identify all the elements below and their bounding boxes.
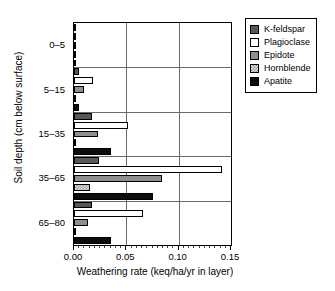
x-minor-tick [183,246,184,248]
bar-plagioclase-65-80 [74,210,143,217]
bar-plagioclase-0-5 [74,33,76,40]
bar-row [74,175,231,182]
x-minor-tick [94,246,95,248]
bar-row [74,237,231,244]
swatch-epidote-icon [250,51,259,60]
x-minor-tick [220,246,221,248]
bar-apatite-35-65 [74,193,153,200]
x-minor-tick [83,246,84,248]
legend-label: Hornblende [264,64,311,73]
y-tick-label: 0–5 [49,39,65,50]
bar-apatite-5-15 [74,104,79,111]
legend-item-k-feldspar[interactable]: K-feldspar [250,23,311,36]
bar-hornblende-0-5 [74,51,76,58]
x-tick-label: 0.15 [221,251,240,262]
bar-row [74,51,231,58]
bar-row [74,77,231,84]
bar-plagioclase-5-15 [74,77,93,84]
bar-row [74,157,231,164]
bar-row [74,166,231,173]
x-major-tick [73,246,74,250]
bar-epidote-5-15 [74,86,84,93]
bar-k-feldspar-5-15 [74,68,79,75]
legend-label: Epidote [264,51,295,60]
x-minor-tick [146,246,147,248]
bar-group [74,201,231,245]
plot-area [73,22,232,246]
legend-item-hornblende[interactable]: Hornblende [250,62,311,75]
bar-group [74,67,231,111]
bar-hornblende-15-35 [74,139,76,146]
x-minor-tick [209,246,210,248]
x-major-tick [230,246,231,250]
x-minor-tick [204,246,205,248]
x-minor-tick [172,246,173,248]
x-minor-tick [141,246,142,248]
x-axis-tick-labels: 0.000.050.100.15 [0,251,335,265]
x-minor-tick [89,246,90,248]
y-axis-tick-labels: 0–55–1515–3535–6565–80 [0,22,70,246]
bar-epidote-0-5 [74,42,76,49]
bar-row [74,228,231,235]
x-minor-tick [199,246,200,248]
bar-row [74,139,231,146]
legend-label: K-feldspar [264,25,305,34]
x-major-tick [125,246,126,250]
bar-k-feldspar-65-80 [74,202,92,209]
x-tick-label: 0.05 [116,251,135,262]
bar-row [74,193,231,200]
bar-hornblende-5-15 [74,95,76,102]
bar-row [74,202,231,209]
bar-epidote-65-80 [74,219,88,226]
x-major-tick [178,246,179,250]
x-minor-tick [131,246,132,248]
legend-item-epidote[interactable]: Epidote [250,49,311,62]
x-minor-tick [214,246,215,248]
bar-row [74,210,231,217]
bar-group [74,23,231,67]
bar-row [74,60,231,67]
bar-row [74,86,231,93]
bar-row [74,33,231,40]
bar-row [74,104,231,111]
bar-plagioclase-15-35 [74,122,128,129]
bar-epidote-15-35 [74,131,98,138]
bar-row [74,42,231,49]
legend-label: Apatite [264,77,292,86]
bar-apatite-65-80 [74,237,111,244]
bar-row [74,68,231,75]
x-minor-tick [157,246,158,248]
x-minor-tick [188,246,189,248]
bar-row [74,113,231,120]
bar-apatite-0-5 [74,60,76,67]
bar-row [74,24,231,31]
bar-group [74,112,231,156]
swatch-k-feldspar-icon [250,25,259,34]
x-minor-tick [136,246,137,248]
x-tick-label: 0.10 [168,251,187,262]
legend-item-plagioclase[interactable]: Plagioclase [250,36,311,49]
bar-row [74,131,231,138]
legend: K-feldsparPlagioclaseEpidoteHornblendeAp… [245,18,317,93]
x-minor-tick [225,246,226,248]
x-minor-tick [193,246,194,248]
x-minor-tick [110,246,111,248]
x-minor-tick [115,246,116,248]
bar-row [74,184,231,191]
y-tick-label: 65–80 [39,216,65,227]
y-tick-label: 35–65 [39,172,65,183]
x-minor-tick [99,246,100,248]
bar-plagioclase-35-65 [74,166,222,173]
bar-row [74,122,231,129]
legend-item-apatite[interactable]: Apatite [250,75,311,88]
bar-k-feldspar-0-5 [74,24,76,31]
bar-epidote-35-65 [74,175,162,182]
bar-group [74,156,231,200]
bar-hornblende-65-80 [74,228,76,235]
x-minor-tick [78,246,79,248]
x-minor-tick [167,246,168,248]
y-tick-label: 5–15 [44,83,65,94]
swatch-plagioclase-icon [250,38,259,47]
x-axis-title: Weathering rate (keq/ha/yr in layer) [40,266,270,277]
bar-apatite-15-35 [74,148,111,155]
